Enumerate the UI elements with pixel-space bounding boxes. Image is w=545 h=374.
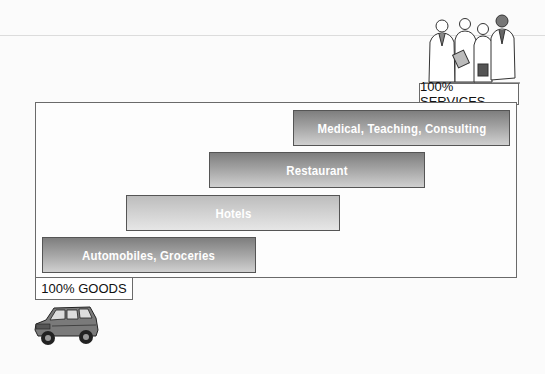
- bar-restaurant: Restaurant: [209, 152, 425, 188]
- suv-car-icon: [32, 302, 102, 348]
- bar-label: Automobiles, Groceries: [83, 248, 216, 263]
- bar-label: Hotels: [215, 206, 251, 221]
- professionals-group-icon: [425, 12, 520, 84]
- bar-label: Restaurant: [286, 163, 348, 178]
- bar-label: Medical, Teaching, Consulting: [317, 121, 486, 136]
- bar-hotels: Hotels: [126, 195, 340, 231]
- bar-automobiles-groceries: Automobiles, Groceries: [42, 237, 256, 273]
- bar-medical-teaching-consulting: Medical, Teaching, Consulting: [293, 110, 510, 146]
- goods-label: 100% GOODS: [35, 277, 133, 300]
